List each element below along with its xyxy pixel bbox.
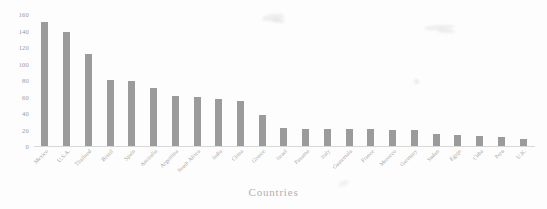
- bar: [128, 81, 135, 146]
- bars-layer: [34, 14, 534, 146]
- x-axis-tick-label: France: [360, 148, 375, 163]
- x-axis-tick-label: U.K.: [515, 148, 527, 160]
- y-axis-tick-label: 40: [22, 110, 29, 117]
- bar: [367, 129, 374, 146]
- x-label-slot: Thailand: [77, 147, 99, 181]
- bar-slot: [121, 14, 143, 146]
- bar: [63, 32, 70, 146]
- bar: [237, 101, 244, 146]
- x-label-slot: China: [230, 147, 252, 181]
- x-axis-tick-label: Mexico: [32, 148, 49, 165]
- bar-chart: 020406080100120140160 MexicoU.S.A.Thaila…: [0, 0, 547, 209]
- bar: [324, 129, 331, 146]
- bar-slot: [56, 14, 78, 146]
- bar: [172, 96, 179, 146]
- x-axis-tick-label: U.S.A.: [55, 148, 71, 164]
- bar-slot: [295, 14, 317, 146]
- x-axis-tick-label: Thailand: [74, 148, 93, 167]
- bar: [302, 129, 309, 146]
- bar-slot: [208, 14, 230, 146]
- x-axis-tick-label: India: [210, 148, 223, 161]
- bar: [476, 136, 483, 146]
- bar: [520, 139, 527, 146]
- bar: [433, 134, 440, 146]
- x-label-slot: South Africa: [186, 147, 208, 181]
- y-axis-tick-label: 140: [19, 27, 29, 34]
- bar-slot: [447, 14, 469, 146]
- y-axis-tick-label: 20: [22, 126, 29, 133]
- x-label-slot: U.K.: [512, 147, 534, 181]
- x-label-slot: Mexico: [34, 147, 56, 181]
- bar-slot: [317, 14, 339, 146]
- bar: [107, 80, 114, 146]
- x-axis-tick-label: Israel: [275, 148, 288, 161]
- x-label-slot: Egypt: [447, 147, 469, 181]
- bar: [41, 22, 48, 146]
- x-label-slot: Panama: [295, 147, 317, 181]
- bar-slot: [338, 14, 360, 146]
- x-axis-tick-label: Sudan: [426, 148, 440, 162]
- bar-slot: [382, 14, 404, 146]
- bar: [85, 54, 92, 146]
- x-label-slot: Brazil: [99, 147, 121, 181]
- bar: [150, 88, 157, 146]
- bar-slot: [164, 14, 186, 146]
- x-axis-title: Countries: [0, 186, 547, 198]
- x-label-slot: Israel: [273, 147, 295, 181]
- x-label-slot: Cuba: [469, 147, 491, 181]
- bar-slot: [186, 14, 208, 146]
- bar-slot: [469, 14, 491, 146]
- y-axis: 020406080100120140160: [0, 14, 32, 146]
- x-axis-tick-label: Panama: [293, 148, 310, 165]
- x-axis-tick-label: Italy: [320, 148, 332, 160]
- bar: [389, 130, 396, 147]
- bar-slot: [34, 14, 56, 146]
- x-axis-tick-label: Spain: [122, 148, 136, 162]
- bar: [411, 130, 418, 147]
- bar-slot: [99, 14, 121, 146]
- bar: [280, 128, 287, 146]
- bar: [498, 137, 505, 146]
- x-label-slot: Guatemala: [338, 147, 360, 181]
- bar: [454, 135, 461, 146]
- bar-slot: [512, 14, 534, 146]
- x-label-slot: Peru: [490, 147, 512, 181]
- bar-slot: [77, 14, 99, 146]
- x-axis-tick-label: Peru: [494, 148, 506, 160]
- y-axis-tick-label: 80: [22, 77, 29, 84]
- bar-slot: [490, 14, 512, 146]
- bar: [259, 115, 266, 146]
- x-axis-tick-label: Cuba: [471, 148, 484, 161]
- y-axis-tick-label: 100: [19, 60, 29, 67]
- y-axis-tick-label: 120: [19, 44, 29, 51]
- x-axis-tick-label: Greece: [251, 148, 267, 164]
- x-label-slot: Sudan: [425, 147, 447, 181]
- bar-slot: [230, 14, 252, 146]
- x-label-slot: Germany: [403, 147, 425, 181]
- bar-slot: [425, 14, 447, 146]
- bar: [215, 99, 222, 146]
- bar-slot: [360, 14, 382, 146]
- x-label-slot: India: [208, 147, 230, 181]
- x-axis-tick-label: Egypt: [448, 148, 462, 162]
- bar: [194, 97, 201, 146]
- x-axis-tick-label: China: [231, 148, 245, 162]
- bar-slot: [251, 14, 273, 146]
- bar-slot: [403, 14, 425, 146]
- bar-slot: [273, 14, 295, 146]
- x-axis-labels: MexicoU.S.A.ThailandBrazilSpainAustralia…: [34, 147, 534, 181]
- bar: [346, 129, 353, 146]
- bar-slot: [143, 14, 165, 146]
- plot-area: [34, 14, 534, 146]
- y-axis-tick-label: 0: [26, 143, 29, 150]
- x-label-slot: Greece: [251, 147, 273, 181]
- x-axis-tick-label: Brazil: [100, 148, 114, 162]
- y-axis-tick-label: 160: [19, 11, 29, 18]
- y-axis-tick-label: 60: [22, 93, 29, 100]
